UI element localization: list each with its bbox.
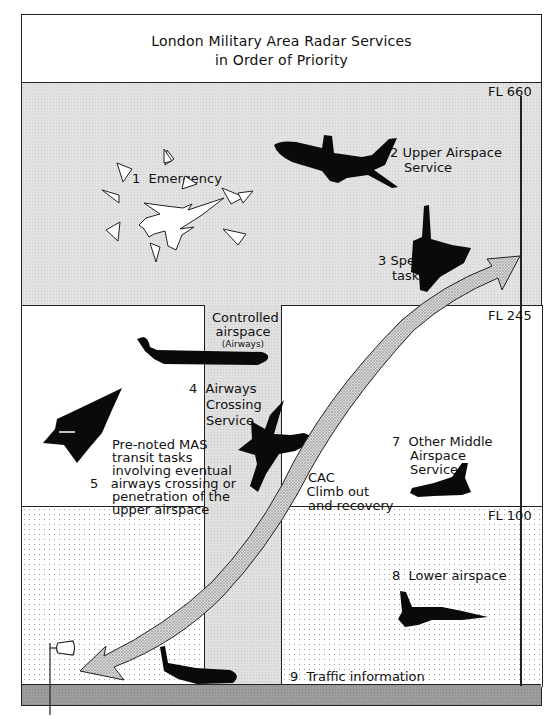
graphics-layer <box>22 15 543 707</box>
middle-airspace-aircraft-icon <box>410 463 471 497</box>
traffic-transport-aircraft-icon <box>160 646 237 684</box>
upper-airspace-aircraft-icon <box>274 135 398 188</box>
airways-aircraft-icon <box>137 337 268 365</box>
diagram-frame: London Military Area Radar Services in O… <box>21 14 542 706</box>
emergency-aircraft-icon <box>139 198 224 250</box>
windsock-icon <box>50 641 75 715</box>
lower-airspace-aircraft-icon <box>398 591 488 627</box>
mas-transit-aircraft-icon <box>43 388 122 463</box>
